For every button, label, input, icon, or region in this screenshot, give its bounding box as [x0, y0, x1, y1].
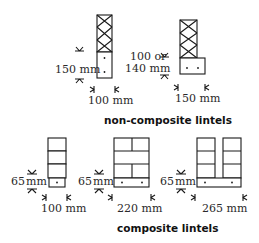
- width-label: 265 mm: [202, 202, 248, 215]
- brick-course: [48, 164, 66, 178]
- width-label: 100 mm: [88, 94, 134, 107]
- lintel-section: [180, 58, 205, 74]
- reinforcement-bar: [186, 67, 188, 69]
- brick-leaf-outer: [197, 138, 215, 178]
- non-composite-lintel-100mm: 150 mm 100 mm: [55, 15, 134, 107]
- reinforcement-bar: [121, 182, 123, 184]
- composite-lintel-220mm: 65 mm 220 mm: [78, 138, 163, 215]
- height-label-line2: 140 mm: [125, 62, 171, 75]
- reinforcement-bar: [56, 182, 58, 184]
- composite-lintel-265mm: 65 mm 265 mm: [160, 138, 248, 215]
- width-dimension-arrows: [174, 84, 209, 91]
- brick-leaf-inner: [223, 138, 241, 178]
- width-dimension-arrows: [108, 194, 155, 201]
- width-dimension-arrows: [42, 194, 71, 201]
- non-composite-lintel-150mm: 100 or 140 mm 150 mm: [125, 20, 221, 105]
- reinforcement-bar: [231, 182, 233, 184]
- height-label-unit: mm: [26, 175, 47, 188]
- brick-course: [48, 138, 66, 151]
- reinforcement-bar: [197, 67, 199, 69]
- caption-composite: composite lintels: [117, 222, 218, 234]
- lintel-diagram: 150 mm 100 mm 100 or 140 mm 150 mm non-c…: [0, 0, 259, 243]
- height-label: 150 mm: [55, 63, 101, 76]
- reinforcement-bar: [141, 182, 143, 184]
- height-label-num: 65: [11, 175, 25, 188]
- width-label: 100 mm: [41, 202, 87, 215]
- height-label-unit: mm: [93, 175, 114, 188]
- height-label-num: 65: [78, 175, 92, 188]
- reinforcement-bar: [104, 71, 106, 73]
- width-dimension-arrows: [90, 86, 119, 93]
- width-dimension-arrows: [191, 194, 247, 201]
- lintel-section: [197, 178, 241, 187]
- lintel-section: [114, 178, 149, 187]
- width-label: 150 mm: [175, 92, 221, 105]
- height-label-num: 65: [160, 175, 174, 188]
- height-label-unit: mm: [175, 175, 196, 188]
- caption-non-composite: non-composite lintels: [104, 114, 232, 126]
- brick-course: [48, 151, 66, 164]
- composite-lintel-100mm: 65 mm 100 mm: [11, 138, 87, 215]
- width-label: 220 mm: [117, 202, 163, 215]
- reinforcement-bar: [204, 182, 206, 184]
- reinforcement-bar: [104, 57, 106, 59]
